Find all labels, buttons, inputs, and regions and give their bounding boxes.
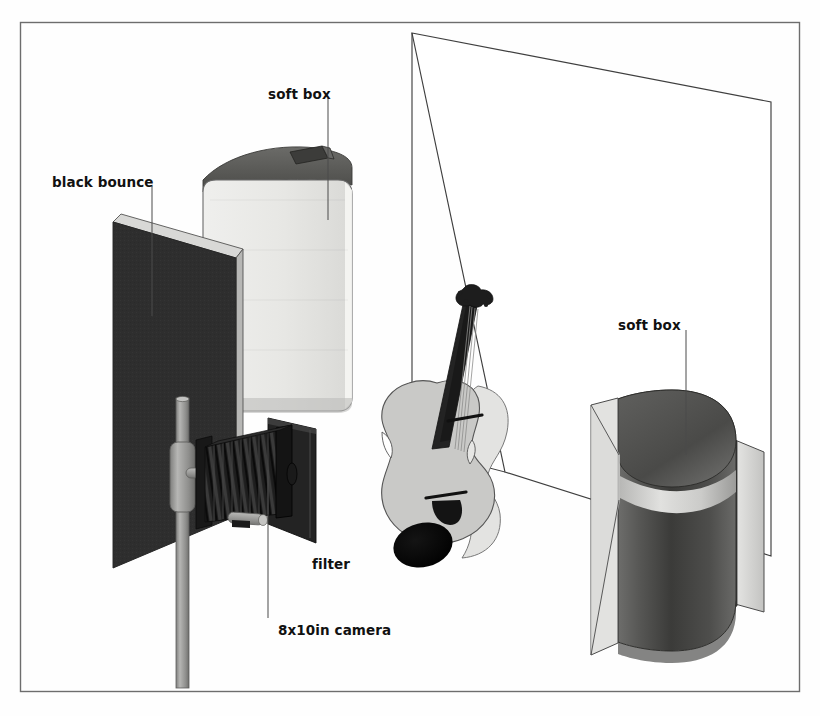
- large-format-camera: [196, 425, 297, 529]
- label-black-bounce: black bounce: [52, 174, 154, 190]
- label-camera: 8x10in camera: [278, 622, 391, 638]
- label-filter: filter: [312, 556, 350, 572]
- label-soft-box-left: soft box: [268, 86, 331, 102]
- diagram-illustration: [0, 0, 820, 716]
- label-soft-box-right: soft box: [618, 317, 681, 333]
- diagram-canvas: soft box black bounce soft box filter 8x…: [0, 0, 820, 716]
